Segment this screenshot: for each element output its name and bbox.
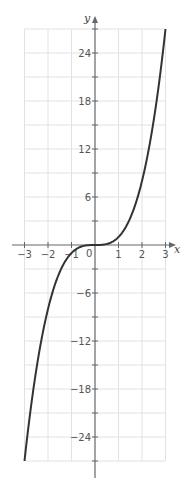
y-tick-label: −12 — [70, 336, 91, 347]
x-tick-label: 3 — [162, 249, 168, 260]
x-tick-label: −2 — [41, 249, 56, 260]
y-tick-label: 6 — [85, 192, 91, 203]
origin-label: 0 — [86, 248, 92, 259]
y-tick-label: 18 — [78, 96, 91, 107]
x-tick-label: 1 — [115, 249, 121, 260]
y-axis-arrow-icon — [92, 16, 98, 23]
y-tick-label: 12 — [78, 144, 91, 155]
y-tick-label: −6 — [76, 288, 91, 299]
plot-area: −3−2−11232418126−6−12−18−24 x y 0 — [0, 0, 185, 490]
x-tick-label: −3 — [17, 249, 32, 260]
x-tick-label: 2 — [139, 249, 145, 260]
cubic-function-chart: −3−2−11232418126−6−12−18−24 x y 0 — [0, 0, 185, 490]
y-tick-label: −18 — [70, 384, 91, 395]
axes — [12, 16, 176, 478]
y-tick-label: −24 — [70, 432, 91, 443]
y-tick-label: 24 — [78, 48, 91, 59]
y-axis-label: y — [83, 12, 91, 25]
x-axis-label: x — [174, 243, 181, 256]
